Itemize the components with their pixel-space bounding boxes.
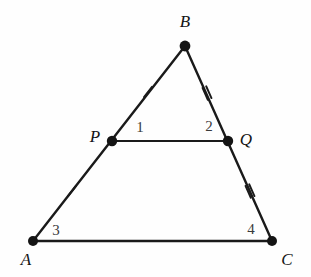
- point-label-a: A: [21, 251, 31, 268]
- angle-label-4: 4: [247, 222, 255, 237]
- angle-label-2: 2: [205, 119, 213, 134]
- vertex-dot-c: [267, 236, 277, 246]
- tick-mark-bp: [144, 87, 152, 97]
- vertex-dot-b: [180, 41, 191, 52]
- angle-label-1: 1: [136, 120, 144, 135]
- point-label-c: C: [281, 251, 292, 268]
- vertex-dot-p: [107, 136, 117, 146]
- point-label-b: B: [180, 13, 190, 30]
- triangle-diagram-svg: [0, 0, 311, 277]
- vertex-dot-a: [28, 236, 38, 246]
- point-label-p: P: [90, 128, 100, 145]
- angle-label-3: 3: [52, 223, 60, 238]
- point-label-q: Q: [240, 131, 252, 148]
- geometry-figure: A B C P Q 1 2 3 4: [0, 0, 311, 277]
- vertex-dot-q: [223, 136, 233, 146]
- tick-mark-pa: [68, 186, 76, 196]
